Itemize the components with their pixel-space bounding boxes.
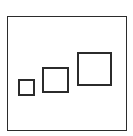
square-small (18, 79, 35, 96)
square-large (77, 52, 112, 86)
square-medium (42, 67, 69, 93)
